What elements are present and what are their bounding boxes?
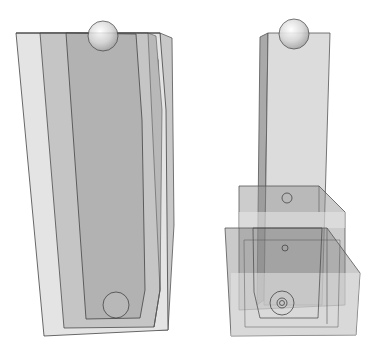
right-top-sphere (279, 19, 309, 49)
right-upper-box-light-band (239, 212, 345, 228)
right-object (225, 19, 360, 336)
diagram-scene (0, 0, 375, 354)
right-lower-box-front (231, 273, 360, 336)
left-bottom-sphere (103, 292, 129, 318)
left-top-sphere (88, 21, 118, 51)
left-object (16, 21, 174, 336)
diagram-svg (0, 0, 375, 354)
